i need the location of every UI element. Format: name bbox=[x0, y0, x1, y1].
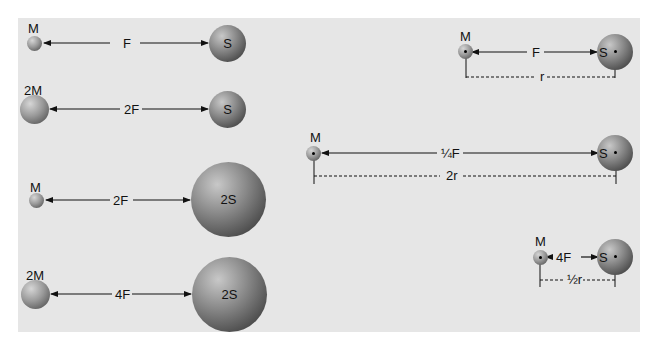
large-mass-label: S bbox=[209, 25, 246, 62]
small-mass-sphere bbox=[20, 95, 49, 124]
distance-label: r bbox=[538, 70, 546, 83]
large-mass-sphere: S bbox=[597, 135, 633, 171]
mass-label: M bbox=[28, 22, 39, 35]
small-mass-sphere bbox=[458, 44, 473, 59]
small-mass-sphere bbox=[306, 146, 321, 161]
force-label: F bbox=[121, 37, 133, 50]
large-mass-label: S bbox=[599, 146, 608, 161]
large-mass-sphere: S bbox=[597, 239, 633, 275]
small-mass-sphere bbox=[533, 250, 548, 265]
force-label: 4F bbox=[555, 251, 572, 264]
arrows-layer bbox=[0, 0, 649, 346]
force-label: 4F bbox=[113, 288, 132, 301]
distance-label: 2r bbox=[444, 169, 460, 182]
small-mass-sphere bbox=[21, 280, 50, 309]
large-mass-label: 2S bbox=[192, 257, 267, 332]
large-mass-label: S bbox=[599, 250, 608, 265]
large-mass-label: S bbox=[599, 45, 608, 60]
large-mass-sphere: S bbox=[597, 34, 633, 70]
center-dot bbox=[614, 255, 617, 258]
force-label: F bbox=[530, 46, 542, 59]
small-mass-sphere bbox=[27, 36, 42, 51]
small-mass-sphere bbox=[29, 193, 44, 208]
large-mass-sphere: 2S bbox=[192, 257, 267, 332]
center-dot bbox=[614, 151, 617, 154]
center-dot bbox=[614, 50, 617, 53]
force-label: ¼F bbox=[439, 147, 462, 160]
mass-label: M bbox=[535, 235, 546, 248]
force-label: 2F bbox=[122, 103, 141, 116]
center-dot bbox=[312, 152, 315, 155]
large-mass-label: S bbox=[209, 91, 246, 128]
mass-label: M bbox=[310, 131, 321, 144]
center-dot bbox=[539, 256, 542, 259]
large-mass-sphere: S bbox=[209, 25, 246, 62]
large-mass-sphere: 2S bbox=[191, 162, 266, 237]
distance-label: ½r bbox=[566, 273, 583, 286]
center-dot bbox=[464, 50, 467, 53]
mass-label: M bbox=[460, 30, 471, 43]
force-label: 2F bbox=[111, 194, 130, 207]
large-mass-label: 2S bbox=[191, 162, 266, 237]
large-mass-sphere: S bbox=[209, 91, 246, 128]
